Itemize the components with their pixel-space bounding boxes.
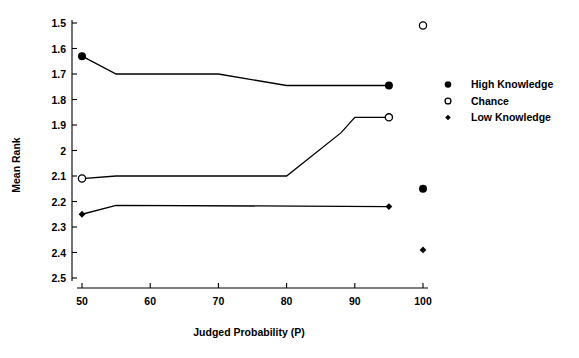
legend-item-low-knowledge: Low Knowledge	[445, 111, 551, 123]
series-line-chance	[82, 117, 389, 178]
series-marker-high-knowledge-0	[78, 52, 86, 60]
series-line-high-knowledge	[82, 56, 389, 85]
y-axis-tick-labels: 1.51.61.71.81.922.12.22.32.42.5	[51, 17, 66, 284]
legend-marker-chance	[445, 98, 451, 104]
x-tick-label-50: 50	[76, 295, 88, 307]
y-tick-label-1.5: 1.5	[51, 17, 66, 29]
x-tick-label-100: 100	[414, 295, 432, 307]
x-tick-label-80: 80	[281, 295, 293, 307]
legend-item-high-knowledge: High Knowledge	[445, 78, 554, 90]
legend-item-chance: Chance	[445, 95, 509, 107]
y-tick-label-2.3: 2.3	[51, 221, 66, 233]
y-tick-label-2.1: 2.1	[51, 170, 66, 182]
x-axis-title: Judged Probability (P)	[193, 326, 304, 338]
y-tick-label-2: 2	[60, 145, 66, 157]
series-marker-low-knowledge-0	[79, 211, 86, 218]
series-line-low-knowledge	[82, 205, 389, 214]
isolated-markers-group	[419, 22, 427, 253]
y-axis-ticks	[72, 23, 77, 278]
y-tick-label-2.4: 2.4	[51, 247, 66, 259]
x-tick-label-60: 60	[144, 295, 156, 307]
x-tick-label-70: 70	[213, 295, 225, 307]
isolated-marker-chance-0	[419, 22, 426, 29]
y-tick-label-1.8: 1.8	[51, 94, 66, 106]
series-marker-high-knowledge-1	[385, 81, 393, 89]
y-tick-label-1.7: 1.7	[51, 68, 66, 80]
isolated-marker-low-knowledge-0	[420, 247, 427, 254]
isolated-marker-high-knowledge-0	[419, 185, 427, 193]
chart-legend: High KnowledgeChanceLow Knowledge	[445, 78, 554, 123]
y-tick-label-1.6: 1.6	[51, 43, 66, 55]
y-tick-label-1.9: 1.9	[51, 119, 66, 131]
x-axis-ticks	[82, 283, 423, 288]
mean-rank-line-chart: 1.51.61.71.81.922.12.22.32.42.5 50607080…	[0, 0, 579, 358]
legend-marker-low-knowledge	[445, 115, 451, 121]
series-marker-chance-0	[78, 175, 85, 182]
x-axis-tick-labels: 5060708090100	[76, 295, 432, 307]
legend-marker-high-knowledge	[445, 81, 452, 88]
y-tick-label-2.2: 2.2	[51, 196, 66, 208]
legend-label-high-knowledge: High Knowledge	[471, 78, 553, 90]
series-marker-chance-1	[385, 114, 392, 121]
legend-label-low-knowledge: Low Knowledge	[471, 111, 551, 123]
legend-label-chance: Chance	[471, 95, 509, 107]
series-lines-group	[82, 56, 389, 214]
y-axis-title: Mean Rank	[10, 137, 22, 193]
series-marker-low-knowledge-1	[386, 203, 393, 210]
y-tick-label-2.5: 2.5	[51, 272, 66, 284]
x-tick-label-90: 90	[349, 295, 361, 307]
chart-figure: 1.51.61.71.81.922.12.22.32.42.5 50607080…	[0, 0, 579, 358]
